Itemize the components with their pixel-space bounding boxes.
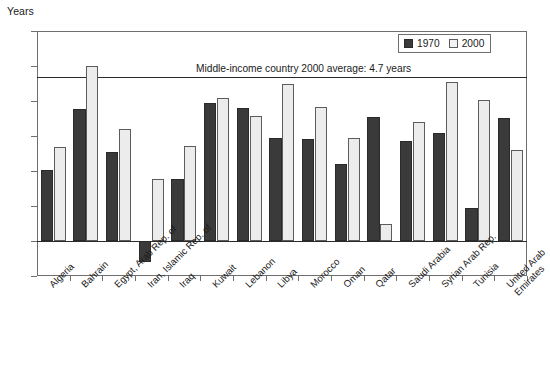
x-tick-mark [200,276,201,281]
bar-2000[interactable] [250,116,262,241]
x-tick-mark [233,276,234,281]
x-tick-mark [429,276,430,281]
legend-entry-1970[interactable]: 1970 [404,38,440,49]
x-tick-mark [168,276,169,281]
bar-1970[interactable] [335,164,347,241]
x-tick-mark [298,276,299,281]
bar-1970[interactable] [41,170,53,241]
bar-1970[interactable] [204,103,216,241]
legend-swatch-2000-icon [449,39,458,48]
legend: 1970 2000 [398,34,491,53]
bar-1970[interactable] [237,108,249,241]
x-tick-mark [364,276,365,281]
bar-2000[interactable] [380,224,392,241]
bar-group [364,31,397,276]
bar-2000[interactable] [282,84,294,242]
y-tick-mark [31,276,37,277]
bar-1970[interactable] [465,208,477,241]
bar-group [429,31,462,276]
x-tick-mark [135,276,136,281]
bar-1970[interactable] [367,117,379,241]
bar-group [37,31,70,276]
bar-2000[interactable] [511,150,523,241]
bar-2000[interactable] [315,107,327,241]
bar-group [70,31,103,276]
bar-2000[interactable] [446,82,458,241]
bar-2000[interactable] [86,66,98,241]
x-tick-mark [331,276,332,281]
bar-group [200,31,233,276]
bar-group [233,31,266,276]
x-tick-mark [70,276,71,281]
bar-1970[interactable] [302,139,314,241]
bar-group [298,31,331,276]
legend-label-1970: 1970 [417,38,440,49]
x-tick-mark [462,276,463,281]
bar-1970[interactable] [106,152,118,241]
x-tick-mark [494,276,495,281]
bar-1970[interactable] [269,138,281,241]
legend-entry-2000[interactable]: 2000 [449,38,485,49]
legend-swatch-1970-icon [404,39,413,48]
bar-2000[interactable] [54,147,66,241]
bar-2000[interactable] [478,100,490,241]
x-tick-mark [102,276,103,281]
bar-group [331,31,364,276]
bar-2000[interactable] [184,146,196,241]
x-tick-mark [266,276,267,281]
bar-1970[interactable] [433,133,445,242]
legend-label-2000: 2000 [462,38,485,49]
bar-1970[interactable] [73,109,85,241]
y-axis-title: Years [7,5,34,17]
bar-1970[interactable] [498,118,510,241]
bar-2000[interactable] [217,98,229,241]
bar-group [494,31,527,276]
x-tick-mark [396,276,397,281]
bar-2000[interactable] [119,129,131,241]
bar-2000[interactable] [413,122,425,241]
bar-group [102,31,135,276]
bar-group [396,31,429,276]
bar-group [266,31,299,276]
bar-1970[interactable] [400,141,412,241]
bars-layer [37,31,527,276]
bar-2000[interactable] [348,138,360,241]
